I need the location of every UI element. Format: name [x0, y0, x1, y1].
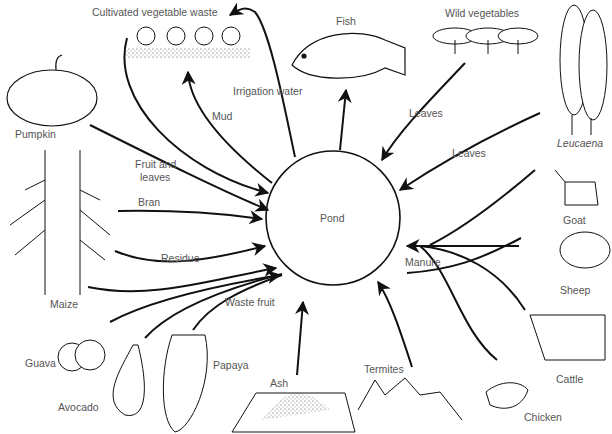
- maize-illustration: [10, 150, 110, 295]
- label-mud: Mud: [212, 110, 232, 122]
- papaya-illustration: [163, 335, 207, 432]
- label-goat: Goat: [563, 214, 586, 226]
- label-cattle: Cattle: [556, 373, 583, 385]
- label-avocado: Avocado: [58, 401, 99, 413]
- leucaena-illustration: [560, 5, 607, 135]
- label-manure: Manure: [405, 256, 441, 268]
- label-waste-fruit: Waste fruit: [225, 296, 275, 308]
- label-papaya: Papaya: [213, 359, 249, 371]
- label-pumpkin: Pumpkin: [15, 128, 56, 140]
- ash-illustration: [232, 393, 355, 432]
- label-guava: Guava: [25, 357, 56, 369]
- label-fruit-and-leaves-1: Fruit and: [135, 158, 176, 170]
- pond-diagram: Cultivated vegetable waste Fish Wild veg…: [0, 0, 612, 434]
- goat-illustration: [555, 170, 598, 205]
- avocado-illustration: [113, 345, 144, 415]
- fish-illustration: [292, 33, 405, 78]
- cattle-illustration: [530, 315, 605, 360]
- label-fruit-and-leaves-2: leaves: [140, 171, 170, 183]
- label-wild-vegetables: Wild vegetables: [445, 7, 519, 19]
- pumpkin-illustration: [7, 55, 97, 126]
- wild-vegetables-illustration: [433, 28, 538, 54]
- chicken-illustration: [486, 383, 528, 409]
- label-ash: Ash: [270, 377, 288, 389]
- guava-illustration: [58, 340, 105, 371]
- diagram-graphics: [0, 0, 612, 434]
- label-maize: Maize: [50, 298, 78, 310]
- label-bran: Bran: [138, 196, 160, 208]
- label-leucaena: Leucaena: [557, 137, 603, 149]
- label-leaves-wild: Leaves: [409, 107, 443, 119]
- termite-mound-illustration: [358, 378, 462, 420]
- label-cultivated-vegetable-waste: Cultivated vegetable waste: [92, 6, 218, 18]
- label-leaves-leucaena: Leaves: [452, 147, 486, 159]
- cultivated-vegetables-illustration: [125, 27, 250, 58]
- sheep-illustration: [560, 232, 610, 268]
- label-fish: Fish: [336, 15, 356, 27]
- label-residue: Residue: [161, 252, 200, 264]
- label-sheep: Sheep: [560, 284, 590, 296]
- label-termites: Termites: [364, 363, 404, 375]
- label-pond: Pond: [320, 212, 345, 224]
- label-chicken: Chicken: [524, 411, 562, 423]
- label-irrigation-water: Irrigation water: [233, 85, 302, 97]
